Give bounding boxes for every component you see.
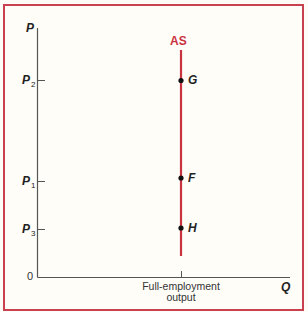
y-axis-label: P <box>26 21 34 35</box>
point-h-label: H <box>188 221 197 235</box>
label-p3-sub: 3 <box>31 229 35 238</box>
point-f <box>178 175 183 180</box>
as-label: AS <box>170 34 187 48</box>
label-p1-sub: 1 <box>31 181 35 190</box>
label-p2-base: P <box>22 73 30 87</box>
label-p3: P3 <box>22 222 35 236</box>
point-h <box>178 225 183 230</box>
x-tick-label: Full-employment output <box>126 281 236 303</box>
point-f-label: F <box>188 171 195 185</box>
origin-label: 0 <box>27 270 33 282</box>
label-p1: P1 <box>22 174 35 188</box>
point-g <box>178 78 183 83</box>
x-axis-label: Q <box>281 280 290 294</box>
label-p1-base: P <box>22 174 30 188</box>
point-g-label: G <box>188 73 197 87</box>
label-p2-sub: 2 <box>31 80 35 89</box>
label-p3-base: P <box>22 222 30 236</box>
diagram-canvas <box>0 0 308 312</box>
label-p2: P2 <box>22 73 35 87</box>
x-tick-label-line2: output <box>126 292 236 303</box>
